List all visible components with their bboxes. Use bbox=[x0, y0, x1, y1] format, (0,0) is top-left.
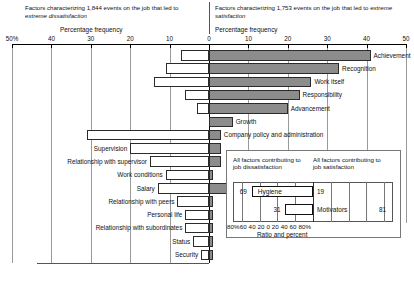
inset-axis-ticks: 80%60 40 20 0 20 40 60 80% bbox=[227, 223, 389, 230]
inset-axis-title: Ratio and percent bbox=[257, 231, 307, 238]
inset-gridline bbox=[384, 182, 385, 222]
dissatisfaction-bar bbox=[130, 143, 209, 154]
dissatisfaction-bar bbox=[166, 63, 209, 74]
dissatisfaction-bar bbox=[181, 50, 209, 61]
category-label: Status bbox=[172, 237, 190, 247]
category-label: Relationship with peers bbox=[108, 197, 174, 207]
dissatisfaction-bar bbox=[166, 170, 209, 181]
inset-gridline bbox=[366, 182, 367, 222]
satisfaction-bar bbox=[209, 90, 300, 101]
left-axis-label: Percentage frequency bbox=[60, 26, 123, 33]
inset-right-value: 81 bbox=[379, 204, 386, 215]
dissatisfaction-bar bbox=[201, 250, 209, 261]
axis-tick bbox=[209, 44, 210, 48]
inset-left-value: 69 bbox=[240, 186, 247, 197]
category-label: Personal life bbox=[147, 210, 182, 220]
dissatisfaction-bar bbox=[158, 183, 209, 194]
axis-tick-label: 30 bbox=[315, 35, 339, 42]
dissatisfaction-bar bbox=[87, 130, 209, 141]
category-label: Security bbox=[175, 250, 198, 260]
axis-tick-label: 40 bbox=[39, 35, 63, 42]
category-label: Responsibility bbox=[303, 90, 342, 100]
category-label: Work itself bbox=[314, 77, 344, 87]
right-panel-title-text: Factors characterizing 1,753 events on t… bbox=[215, 4, 370, 11]
dissatisfaction-bar bbox=[193, 236, 209, 247]
dissatisfaction-bar bbox=[177, 196, 209, 207]
inset-bar-label: Motivators bbox=[317, 204, 347, 215]
chart-row: Advancement bbox=[12, 103, 406, 114]
axis-tick-label: 20 bbox=[276, 35, 300, 42]
axis-tick-label: 30 bbox=[79, 35, 103, 42]
satisfaction-bar bbox=[209, 103, 288, 114]
ratio-inset-panel: All factors contributing to job dissatis… bbox=[226, 150, 401, 238]
chart-row: Responsibility bbox=[12, 90, 406, 101]
satisfaction-bar bbox=[209, 210, 213, 221]
left-grid-bottom-rule bbox=[37, 263, 209, 264]
herzberg-two-factor-chart: Factors characterizing 1,844 events on t… bbox=[0, 0, 414, 308]
category-label: Growth bbox=[236, 117, 257, 127]
chart-row: Growth bbox=[12, 117, 406, 128]
axis-tick-label: 50% bbox=[0, 35, 24, 42]
left-panel-title-emphasis: extreme dissatisfaction bbox=[25, 12, 87, 19]
gridline bbox=[406, 48, 407, 223]
chart-row: Security bbox=[12, 250, 406, 261]
satisfaction-bar bbox=[209, 117, 233, 128]
category-label: Company policy and administration bbox=[224, 130, 323, 140]
inset-caption-satisfaction: All factors contributing to job satisfac… bbox=[313, 156, 383, 171]
inset-caption-dissatisfaction: All factors contributing to job dissatis… bbox=[233, 156, 303, 171]
satisfaction-bar bbox=[209, 250, 213, 261]
left-panel-title: Factors characterizing 1,844 events on t… bbox=[25, 4, 200, 19]
axis-tick-label: 50 bbox=[394, 35, 414, 42]
satisfaction-bar bbox=[209, 63, 339, 74]
right-axis-label: Percentage frequency bbox=[215, 26, 278, 33]
inset-gridline bbox=[331, 182, 332, 222]
category-label: Relationship with subordinates bbox=[96, 223, 183, 233]
right-panel-title: Factors characterizing 1,753 events on t… bbox=[215, 4, 405, 19]
dissatisfaction-bar bbox=[185, 223, 209, 234]
satisfaction-bar bbox=[209, 236, 213, 247]
chart-row: Work itself bbox=[12, 77, 406, 88]
satisfaction-bar bbox=[209, 143, 221, 154]
inset-plot: 69Hygiene1931Motivators81 bbox=[233, 182, 393, 222]
dissatisfaction-bar bbox=[197, 103, 209, 114]
axis-tick-label: 10 bbox=[158, 35, 182, 42]
inset-bar bbox=[285, 204, 313, 215]
category-label: Relationship with supervisor bbox=[67, 157, 147, 167]
left-panel-title-text: Factors characterizing 1,844 events on t… bbox=[25, 4, 178, 11]
category-label: Achievement bbox=[374, 51, 411, 61]
satisfaction-bar bbox=[209, 156, 221, 167]
header-divider bbox=[209, 2, 210, 34]
axis-tick-label: 0 bbox=[197, 35, 221, 42]
satisfaction-bar bbox=[209, 196, 213, 207]
chart-row: Achievement bbox=[12, 50, 406, 61]
inset-left-value: 31 bbox=[273, 204, 280, 215]
dissatisfaction-bar bbox=[185, 210, 209, 221]
category-label: Advancement bbox=[291, 104, 330, 114]
category-label: Recognition bbox=[342, 64, 376, 74]
category-label: Salary bbox=[137, 184, 155, 194]
satisfaction-bar bbox=[209, 170, 213, 181]
axis-tick-label: 40 bbox=[355, 35, 379, 42]
satisfaction-bar bbox=[209, 130, 221, 141]
dissatisfaction-bar bbox=[154, 77, 209, 88]
satisfaction-bar bbox=[209, 50, 371, 61]
category-label: Work conditions bbox=[117, 170, 162, 180]
axis-tick-label: 20 bbox=[118, 35, 142, 42]
chart-row: Company policy and administration bbox=[12, 130, 406, 141]
dissatisfaction-bar bbox=[150, 156, 209, 167]
inset-gridline bbox=[349, 182, 350, 222]
satisfaction-bar bbox=[209, 77, 311, 88]
inset-right-value: 19 bbox=[317, 186, 324, 197]
chart-row: Recognition bbox=[12, 63, 406, 74]
category-label: Supervision bbox=[94, 144, 127, 154]
dissatisfaction-bar bbox=[185, 90, 209, 101]
inset-zero-line bbox=[313, 182, 314, 222]
axis-tick-label: 10 bbox=[236, 35, 260, 42]
satisfaction-bar bbox=[209, 223, 213, 234]
inset-bar-label: Hygiene bbox=[258, 186, 282, 197]
